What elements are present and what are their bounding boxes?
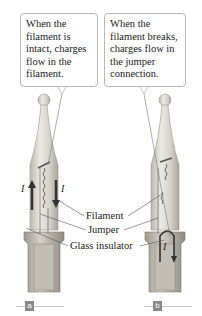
tag-b: b — [153, 301, 162, 311]
bulb-a — [24, 94, 64, 292]
tag-line-b — [144, 306, 192, 307]
label-filament: Filament — [86, 210, 123, 221]
bulb-b — [145, 94, 185, 292]
current-label-a-left: I — [20, 183, 25, 194]
current-label-b: I — [162, 241, 167, 252]
label-jumper: Jumper — [88, 224, 119, 235]
tag-line-a — [16, 306, 64, 307]
callout-a: When the filament is intact, charges flo… — [20, 13, 98, 87]
callout-b: When the filament breaks, charges flow i… — [104, 13, 186, 87]
label-glass-insulator: Glass insulator — [70, 240, 133, 251]
tag-a: a — [25, 301, 34, 311]
current-label-a-right: I — [60, 183, 65, 194]
